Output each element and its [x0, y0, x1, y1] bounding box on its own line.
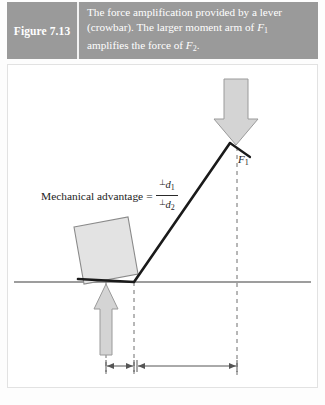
caption-line-3-text: amplifies the force of: [87, 39, 186, 51]
caption-line-1: The force amplification provided by a le…: [87, 6, 282, 18]
formula-numerator: ⊥d1: [156, 177, 178, 196]
lever-diagram: [8, 65, 317, 387]
formula-denominator: ⊥d2: [156, 196, 178, 214]
dimension-d1: [137, 360, 237, 372]
force-f1-subscript: 1: [245, 158, 249, 167]
caption-f1-symbol: F: [257, 21, 264, 33]
figure-caption-cell: The force amplification provided by a le…: [79, 2, 318, 59]
figure-panel: Mechanical advantage = ⊥d1 ⊥d2 F1 F2 ⊥d1…: [7, 64, 318, 388]
caption-period: .: [197, 39, 200, 51]
formula-denominator-sub: 2: [171, 203, 175, 212]
load-block: [74, 217, 138, 284]
caption-f2-symbol: F: [186, 39, 193, 51]
formula-label: Mechanical advantage: [41, 190, 143, 202]
figure-caption-text: The force amplification provided by a le…: [87, 5, 312, 55]
formula-numerator-sub: 1: [171, 183, 175, 192]
force-f1-symbol: F: [238, 153, 245, 165]
dimension-d2: [106, 360, 134, 372]
caption-f1-subscript: 1: [264, 25, 268, 34]
caption-line-2-text: (crowbar). The larger moment arm of: [87, 21, 257, 33]
perp-icon-denominator: ⊥: [159, 198, 166, 207]
figure-caption-header: Figure 7.13 The force amplification prov…: [7, 2, 318, 59]
perp-icon-numerator: ⊥: [159, 178, 166, 187]
formula-fraction: ⊥d1 ⊥d2: [156, 177, 178, 214]
figure-number-label: Figure 7.13: [14, 25, 70, 37]
force-f1-arrow: [214, 79, 258, 145]
mechanical-advantage-formula: Mechanical advantage = ⊥d1 ⊥d2: [41, 177, 178, 214]
force-f2-arrow: [94, 284, 118, 355]
figure-container: Figure 7.13 The force amplification prov…: [0, 0, 325, 405]
formula-equals-sign: =: [146, 190, 152, 202]
force-f1-label: F1: [238, 153, 249, 167]
figure-number-cell: Figure 7.13: [7, 2, 79, 59]
